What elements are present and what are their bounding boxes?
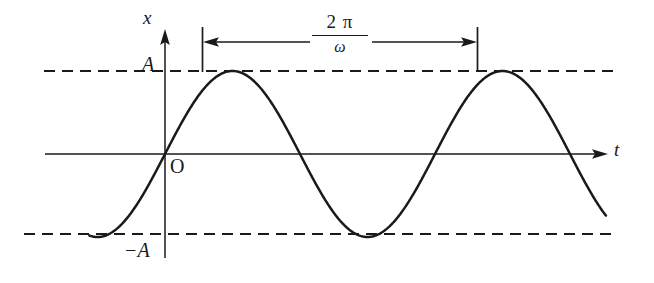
label-origin: O bbox=[170, 156, 184, 176]
period-numerator: 2 π bbox=[312, 11, 368, 34]
period-denominator: ω bbox=[312, 37, 368, 56]
label-amplitude-positive: A bbox=[142, 54, 154, 74]
oscillation-figure: x t A O −A 2 π ω bbox=[0, 0, 654, 283]
period-label: 2 π ω bbox=[312, 11, 368, 56]
label-amplitude-negative: −A bbox=[124, 240, 150, 260]
axis-label-x: x bbox=[143, 8, 151, 27]
fraction-bar bbox=[312, 35, 368, 36]
horizontal-axis bbox=[45, 149, 608, 159]
axis-label-t: t bbox=[614, 140, 619, 159]
vertical-axis bbox=[160, 29, 170, 258]
period-arrow-right-segment bbox=[372, 37, 477, 47]
period-arrow-left-segment bbox=[203, 37, 310, 47]
